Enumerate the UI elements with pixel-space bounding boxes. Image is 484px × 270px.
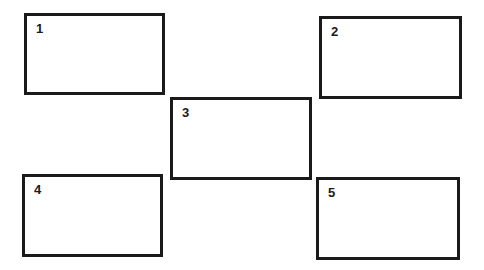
box-1: 1	[24, 13, 165, 95]
box-label: 3	[182, 106, 189, 119]
box-5: 5	[316, 177, 460, 260]
box-4: 4	[22, 174, 163, 257]
box-2: 2	[319, 16, 462, 99]
box-label: 1	[36, 22, 43, 35]
box-3: 3	[170, 97, 312, 180]
box-label: 5	[328, 186, 335, 199]
box-label: 2	[331, 25, 338, 38]
box-label: 4	[34, 183, 41, 196]
